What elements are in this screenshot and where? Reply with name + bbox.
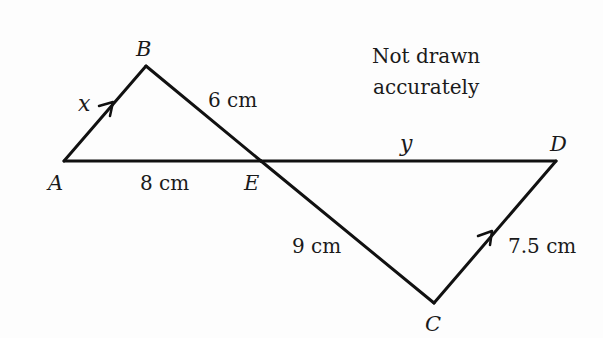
side-label-x: x	[78, 91, 91, 116]
note-line-1: Not drawn	[372, 44, 480, 68]
segment-ec	[261, 161, 434, 303]
vertex-label-d: D	[549, 132, 567, 156]
note-line-2: accurately	[373, 75, 480, 99]
segment-ab	[64, 66, 146, 161]
side-label-ae: 8 cm	[140, 171, 189, 195]
vertex-label-a: A	[46, 171, 63, 195]
segment-cd	[434, 161, 556, 303]
side-label-ec: 9 cm	[292, 234, 341, 258]
vertex-label-b: B	[135, 37, 151, 61]
vertex-label-c: C	[425, 312, 441, 336]
side-label-be: 6 cm	[208, 88, 257, 112]
side-label-y: y	[399, 131, 413, 156]
diagram-canvas: A B E D C x 6 cm 8 cm y 9 cm 7.5 cm Not …	[0, 0, 603, 338]
side-label-cd: 7.5 cm	[508, 234, 576, 258]
segment-be	[146, 66, 261, 161]
vertex-label-e: E	[243, 171, 259, 195]
geometry-diagram: A B E D C x 6 cm 8 cm y 9 cm 7.5 cm Not …	[0, 0, 603, 338]
